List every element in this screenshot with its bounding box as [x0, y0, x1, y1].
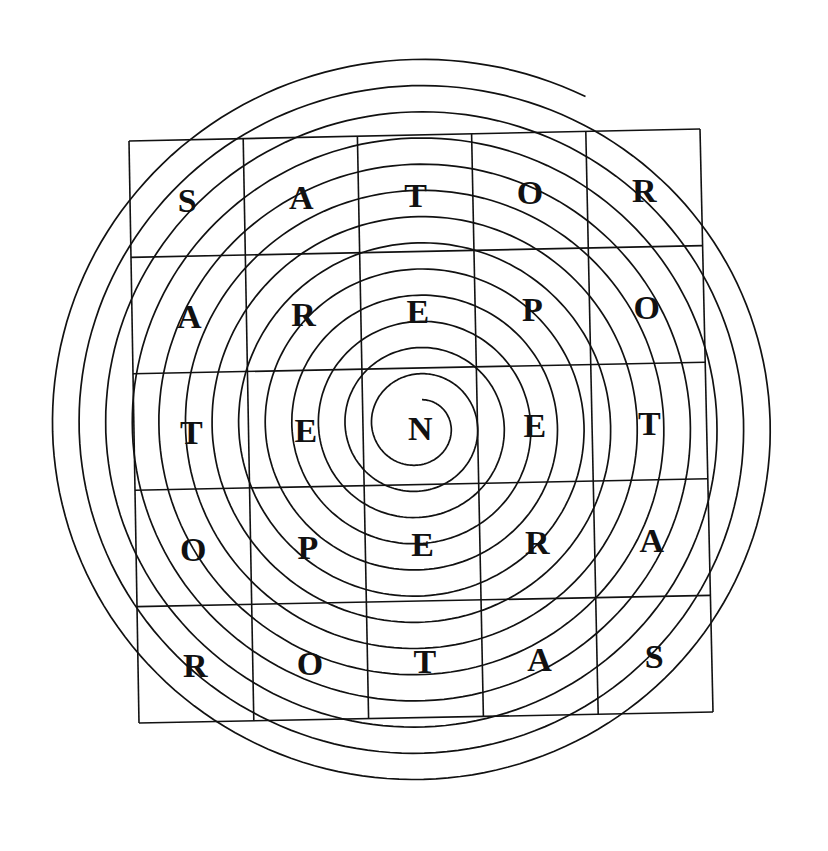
grid-letter-r1c4: O — [517, 174, 543, 211]
grid-letter-r4c3: E — [411, 526, 434, 563]
grid-row-line — [129, 129, 700, 141]
grid-column-line — [472, 134, 484, 717]
grid-letter-r1c2: A — [289, 179, 314, 216]
grid-letter-r2c3: E — [407, 293, 430, 330]
grid-letter-r3c3: N — [408, 410, 433, 447]
grid-column-line — [129, 141, 139, 723]
grid-letter-r5c5: S — [645, 638, 664, 675]
grid-letter-r2c4: P — [522, 291, 543, 328]
grid-row-line — [139, 712, 713, 723]
grid-letter-r2c2: R — [291, 296, 316, 333]
grid-row-line — [131, 246, 703, 258]
grid-letter-r1c1: S — [178, 182, 197, 219]
grid-letter-r5c2: O — [297, 645, 323, 682]
grid-letter-r3c4: E — [523, 407, 546, 444]
grid-letter-r1c5: R — [632, 172, 657, 209]
grid-letter-r4c5: A — [640, 522, 665, 559]
grid-letter-r4c2: P — [298, 529, 319, 566]
grid-letter-r5c1: R — [183, 647, 208, 684]
grid-letter-r4c4: R — [525, 524, 550, 561]
grid-letter-r4c1: O — [180, 531, 206, 568]
grid-letter-r1c3: T — [404, 177, 427, 214]
grid-column-line — [700, 129, 713, 712]
grid-letter-r3c5: T — [638, 405, 661, 442]
grid-letter-r3c2: E — [294, 412, 317, 449]
sator-square-diagram: SATORAREPOTENETOPERAROTAS — [0, 0, 828, 851]
diagram-canvas: SATORAREPOTENETOPERAROTAS — [0, 0, 828, 851]
grid-letter-r5c3: T — [414, 643, 437, 680]
grid-letter-r3c1: T — [180, 414, 203, 451]
grid-column-line — [586, 131, 598, 714]
grid-letter-r2c1: A — [177, 298, 202, 335]
grid-letter-r5c4: A — [527, 641, 552, 678]
grid-letter-r2c5: O — [633, 289, 659, 326]
